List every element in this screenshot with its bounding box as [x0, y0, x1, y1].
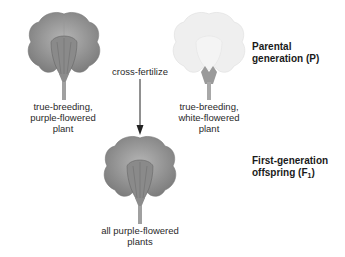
offspring-line1: all purple-flowered — [85, 225, 195, 236]
white-parent-line2: white-flowered — [154, 112, 264, 123]
cross-fertilize-label: cross-fertilize — [100, 66, 180, 77]
down-arrow-icon — [134, 79, 146, 135]
parental-generation-label: Parental generation (P) — [252, 41, 319, 65]
purple-parent-line1: true-breeding, — [8, 101, 118, 112]
f1-line1: First-generation — [252, 155, 328, 167]
white-parent-line1: true-breeding, — [154, 101, 264, 112]
white-parent-label: true-breeding, white-flowered plant — [154, 101, 264, 134]
purple-parent-label: true-breeding, purple-flowered plant — [8, 101, 118, 134]
white-flower-icon — [170, 8, 248, 100]
f1-line2: offspring (F1) — [252, 167, 328, 182]
offspring-flower-icon — [101, 132, 179, 224]
offspring-line2: plants — [85, 236, 195, 247]
parental-line2: generation (P) — [252, 53, 319, 65]
f1-line2-suffix: ) — [311, 167, 314, 178]
purple-parent-line2: purple-flowered — [8, 112, 118, 123]
parental-line1: Parental — [252, 41, 319, 53]
offspring-label: all purple-flowered plants — [85, 225, 195, 247]
f1-generation-label: First-generation offspring (F1) — [252, 155, 328, 182]
purple-flower-icon — [25, 8, 103, 100]
f1-line2-prefix: offspring (F — [252, 167, 308, 178]
